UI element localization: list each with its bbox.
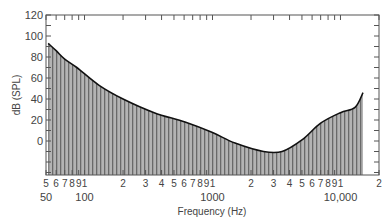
x-minor-tick-label: 2: [248, 178, 254, 189]
x-major-label: 1000: [200, 191, 224, 203]
x-minor-tick-label: 6: [53, 178, 59, 189]
x-minor-tick-label: 2: [120, 178, 126, 189]
x-minor-tick-label: 4: [287, 178, 293, 189]
y-tick-label: 60: [31, 72, 43, 84]
x-minor-tick-label: 1: [82, 178, 88, 189]
x-axis-minor-tick-labels: 5678912345678912345678912: [43, 178, 382, 189]
x-minor-tick-label: 5: [299, 178, 305, 189]
x-minor-tick-label: 7: [62, 178, 68, 189]
y-tick-label: 80: [31, 51, 43, 63]
x-minor-tick-label: 3: [271, 178, 277, 189]
x-major-label: 50: [40, 191, 52, 203]
x-minor-tick-label: 5: [43, 178, 49, 189]
x-minor-tick-label: 8: [325, 178, 331, 189]
y-tick-label: 20: [31, 114, 43, 126]
x-major-label: 100: [75, 191, 93, 203]
x-minor-tick-label: 8: [69, 178, 75, 189]
x-minor-tick-label: 4: [159, 178, 165, 189]
x-axis-title: Frequency (Hz): [178, 206, 247, 217]
y-tick-label: 0: [37, 135, 43, 147]
x-minor-tick-label: 1: [210, 178, 216, 189]
y-axis-tick-labels: 020406080100120: [25, 9, 43, 147]
y-tick-label: 100: [25, 30, 43, 42]
x-major-label: 10,000: [324, 191, 358, 203]
x-minor-tick-label: 3: [143, 178, 149, 189]
x-minor-tick-label: 5: [171, 178, 177, 189]
x-minor-tick-label: 2: [376, 178, 382, 189]
plot-area: [46, 15, 379, 175]
x-minor-tick-label: 7: [190, 178, 196, 189]
frequency-response-chart: 020406080100120 567891234567891234567891…: [0, 0, 392, 223]
y-axis-title: dB (SPL): [11, 75, 22, 116]
y-tick-label: 120: [25, 9, 43, 21]
y-tick-label: 40: [31, 93, 43, 105]
response-area-fill: [48, 43, 363, 175]
x-axis-major-labels: 50100100010,000: [40, 191, 357, 203]
x-minor-tick-label: 8: [197, 178, 203, 189]
x-minor-tick-label: 1: [338, 178, 344, 189]
x-minor-tick-label: 6: [309, 178, 315, 189]
x-minor-tick-label: 7: [318, 178, 324, 189]
x-minor-tick-label: 6: [181, 178, 187, 189]
